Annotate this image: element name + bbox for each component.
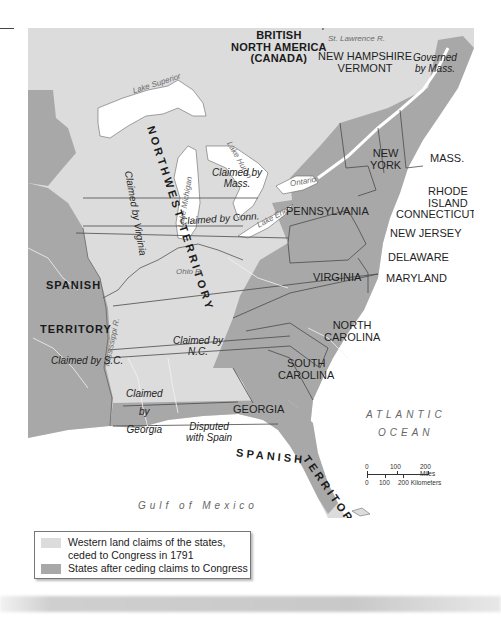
- legend-item-western-claims: Western land claims of the states, ceded…: [41, 536, 225, 561]
- scale-bar: 0 100 200 Miles 0 100 200 Kilometers: [365, 463, 445, 493]
- map-frame: BRITISH NORTH AMERICA (CANADA) Disputed …: [28, 28, 474, 518]
- label-nh-vermont: NEW HAMPSHIRE VERMONT: [318, 51, 412, 74]
- scale-km-0: 0: [365, 479, 369, 486]
- scale-km-100: 100: [379, 479, 390, 486]
- legend-swatch-dark: [41, 564, 61, 574]
- label-delaware: DELAWARE: [388, 252, 449, 264]
- label-georgia: GEORGIA: [233, 404, 284, 416]
- scale-km-200: 200 Kilometers: [398, 479, 441, 486]
- label-north-carolina: NORTH CAROLINA: [324, 320, 380, 343]
- label-maryland: MARYLAND: [386, 273, 447, 285]
- legend-label-states: States after ceding claims to Congress: [68, 562, 248, 575]
- label-governed-by-mass: Governed by Mass.: [413, 53, 457, 74]
- label-new-york: NEW YORK: [370, 148, 401, 171]
- label-spanish-territory-west: SPANISH: [46, 280, 101, 292]
- label-disputed-with-spain: Disputed with Spain: [186, 422, 232, 443]
- label-british-north-america: BRITISH NORTH AMERICA (CANADA): [231, 30, 327, 65]
- label-claimed-by-nc: Claimed by N.C.: [173, 336, 223, 357]
- page-divider-band: [0, 596, 501, 612]
- label-connecticut: CONNECTICUT: [396, 209, 474, 221]
- header-rule: [0, 28, 14, 29]
- label-claimed-by-sc: Claimed by S.C.: [51, 356, 123, 367]
- label-ohio-river: Ohio R.: [176, 268, 203, 276]
- scale-miles-0: 0: [365, 463, 369, 470]
- label-claimed-by-mass: Claimed by Mass.: [212, 168, 262, 189]
- label-new-jersey: NEW JERSEY: [390, 228, 462, 240]
- label-spanish-territory-west-2: TERRITORY: [40, 324, 112, 336]
- label-south-carolina: SOUTH CAROLINA: [278, 358, 334, 381]
- label-claimed-by-georgia: Claimed by Georgia: [126, 385, 163, 439]
- label-rhode-island: RHODE ISLAND: [428, 186, 468, 209]
- label-atlantic-ocean: ATLANTIC OCEAN: [366, 406, 446, 442]
- legend-label-western-claims: Western land claims of the states, ceded…: [68, 536, 225, 561]
- label-disputed-with-britain: Disputed with Britain: [308, 28, 399, 31]
- label-st-lawrence-river: St. Lawrence R.: [328, 35, 385, 43]
- legend-item-states: States after ceding claims to Congress: [41, 562, 248, 575]
- label-pennsylvania: PENNSYLVANIA: [286, 206, 369, 218]
- legend-swatch-light: [41, 538, 61, 548]
- label-virginia: VIRGINIA: [313, 272, 361, 284]
- map-legend: Western land claims of the states, ceded…: [34, 531, 251, 579]
- label-mass: MASS.: [430, 153, 464, 165]
- scale-miles-100: 100: [390, 463, 401, 470]
- label-gulf-of-mexico: Gulf of Mexico: [138, 501, 258, 512]
